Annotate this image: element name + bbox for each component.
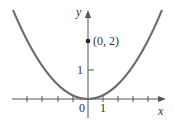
- origin-label: 0: [79, 101, 85, 115]
- x-tick-label-1: 1: [100, 101, 106, 115]
- x-axis-arrow-icon: [158, 96, 166, 102]
- point-label: (0, 2): [93, 34, 119, 48]
- y-axis-label: y: [75, 5, 82, 19]
- y-axis-arrow-icon: [85, 10, 91, 18]
- chart: y x (0, 2) 1 0 1: [0, 0, 175, 124]
- x-axis-label: x: [157, 104, 164, 118]
- y-tick-label-1: 1: [77, 63, 83, 77]
- point-marker: [86, 39, 91, 44]
